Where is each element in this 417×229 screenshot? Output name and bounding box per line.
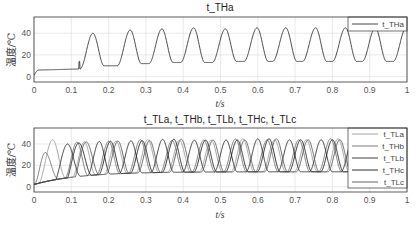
y-tick-label: 0 <box>26 182 31 192</box>
y-tick-label: 20 <box>22 50 32 60</box>
legend-entry: t_THb <box>382 142 404 151</box>
x-tick-label: 0.3 <box>140 195 152 205</box>
x-tick-label: 0.9 <box>364 85 376 95</box>
x-tick-label: 0.8 <box>326 85 338 95</box>
legend: t_TLat_THbt_TLbt_THct_TLc <box>348 128 407 188</box>
y-tick-label: 40 <box>22 139 32 149</box>
x-tick-label: 0.4 <box>177 85 189 95</box>
legend-entry: t_TLa <box>384 130 405 139</box>
x-tick-label: 0.5 <box>215 85 227 95</box>
legend-entry: t_TLb <box>384 154 405 163</box>
x-tick-label: 0.2 <box>103 85 115 95</box>
legend-entry: t_TLc <box>384 178 404 187</box>
bottom-chart-title: t_TLa, t_THb, t_TLb, t_THc, t_TLc <box>144 114 296 125</box>
legend: t_THa <box>348 17 407 31</box>
bottom-x-axis-label: t/s <box>216 210 225 220</box>
x-tick-label: 0.4 <box>177 195 189 205</box>
x-tick-label: 0.6 <box>252 195 264 205</box>
bottom-y-axis-label: 温度/℃ <box>5 143 17 178</box>
x-tick-label: 0 <box>32 195 37 205</box>
x-tick-label: 0 <box>32 85 37 95</box>
x-tick-label: 0.1 <box>65 85 77 95</box>
top-x-axis-label: t/s <box>216 99 225 109</box>
y-tick-label: 40 <box>22 28 32 38</box>
x-tick-label: 0.3 <box>140 85 152 95</box>
x-tick-label: 0.9 <box>364 195 376 205</box>
x-tick-label: 0.1 <box>65 195 77 205</box>
y-tick-label: 0 <box>26 72 31 82</box>
x-tick-label: 0.5 <box>215 195 227 205</box>
x-tick-label: 0.2 <box>103 195 115 205</box>
x-tick-label: 0.8 <box>326 195 338 205</box>
legend-entry: t_THa <box>382 20 404 29</box>
x-tick-label: 0.7 <box>289 195 301 205</box>
x-tick-label: 0.6 <box>252 85 264 95</box>
legend-entry: t_THc <box>383 166 404 175</box>
y-tick-label: 20 <box>22 160 32 170</box>
axes-top: 00.10.20.30.40.50.60.70.80.9102040t_THa <box>22 17 410 95</box>
axes-bottom: 00.10.20.30.40.50.60.70.80.9102040t_TLat… <box>22 128 410 205</box>
x-tick-label: 0.7 <box>289 85 301 95</box>
top-y-axis-label: 温度/℃ <box>5 33 17 68</box>
top-chart-title: t_THa <box>206 2 234 13</box>
chart-figure: 00.10.20.30.40.50.60.70.80.9102040t_THa … <box>0 0 417 229</box>
x-tick-label: 1 <box>405 85 410 95</box>
x-tick-label: 1 <box>405 195 410 205</box>
